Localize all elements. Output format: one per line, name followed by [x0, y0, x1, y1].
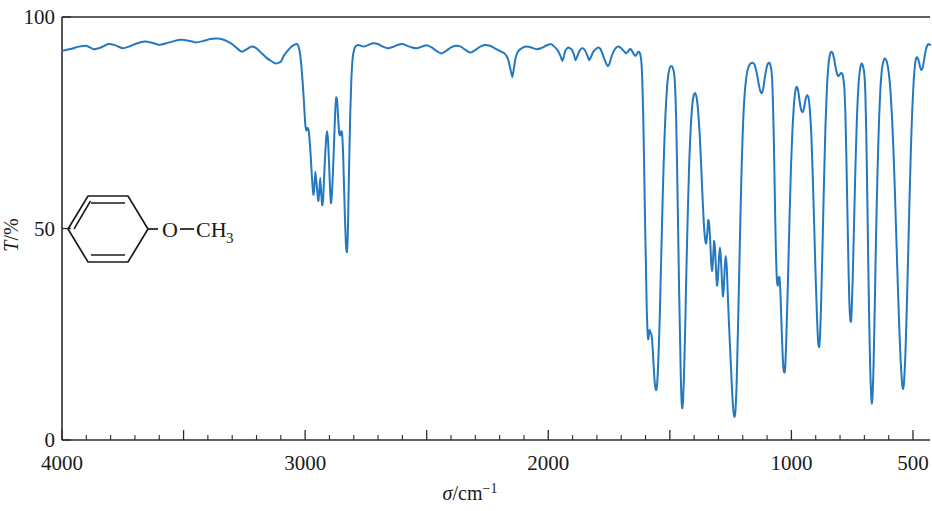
- methyl-group-label: CH: [196, 217, 227, 242]
- x-tick-label: 3000: [284, 451, 326, 475]
- y-axis-tick-labels: 050100: [24, 5, 56, 452]
- x-tick-label: 1000: [770, 451, 812, 475]
- x-axis-title: σ/cm−1: [443, 481, 498, 504]
- x-axis-title-unit: /cm: [452, 482, 482, 504]
- y-tick-label: 50: [34, 217, 55, 241]
- y-axis-ticks: [62, 17, 71, 440]
- methyl-subscript-label: 3: [226, 230, 234, 246]
- spectrum-curve: [62, 39, 930, 417]
- x-axis-ticks: [62, 430, 913, 440]
- figure-root: 4000300020001000500 050100 σ/cm−1 T/%: [0, 0, 932, 511]
- x-axis-tick-labels: 4000300020001000500: [41, 451, 929, 475]
- x-tick-label: 2000: [527, 451, 569, 475]
- y-tick-label: 100: [24, 5, 56, 29]
- x-tick-label: 500: [897, 451, 929, 475]
- chemical-structure-anisole: O CH 3: [68, 196, 234, 262]
- x-tick-label: 4000: [41, 451, 83, 475]
- y-axis-title-unit: /%: [0, 218, 22, 240]
- svg-text:T/%: T/%: [0, 218, 22, 251]
- y-tick-label: 0: [45, 428, 56, 452]
- oxygen-atom-label: O: [162, 217, 178, 242]
- ir-spectrum-figure: 4000300020001000500 050100 σ/cm−1 T/%: [0, 0, 932, 511]
- benzene-ring-outer: [68, 196, 148, 262]
- y-axis-title: T/%: [0, 218, 22, 251]
- x-axis-title-exponent: −1: [482, 481, 497, 496]
- svg-text:σ/cm−1: σ/cm−1: [443, 481, 498, 504]
